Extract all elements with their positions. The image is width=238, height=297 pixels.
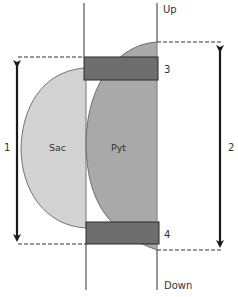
diagram-canvas: Up Down Sac Pyt 3 4 1 2	[0, 0, 238, 297]
label-marker-4: 4	[164, 229, 170, 240]
block-4	[86, 222, 159, 244]
label-sac: Sac	[49, 142, 66, 153]
label-dimension-1: 1	[4, 142, 10, 153]
block-3	[84, 57, 158, 80]
label-down: Down	[164, 280, 192, 291]
label-up: Up	[163, 4, 177, 15]
label-dimension-2: 2	[228, 142, 234, 153]
label-marker-3: 3	[164, 64, 170, 75]
label-pyt: Pyt	[111, 142, 126, 153]
